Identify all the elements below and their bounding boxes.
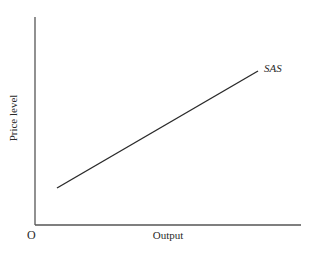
chart: SAS O Output Price level — [0, 0, 318, 259]
sas-label: SAS — [264, 62, 282, 74]
sas-curve — [57, 71, 258, 188]
x-axis-label: Output — [153, 229, 184, 241]
y-axis-label: Price level — [7, 95, 19, 142]
origin-label: O — [27, 228, 36, 242]
